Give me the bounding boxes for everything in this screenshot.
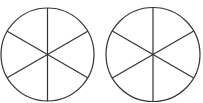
circle-1: [1, 8, 94, 101]
circle-2: [106, 8, 200, 102]
diagram-canvas: [0, 0, 203, 103]
